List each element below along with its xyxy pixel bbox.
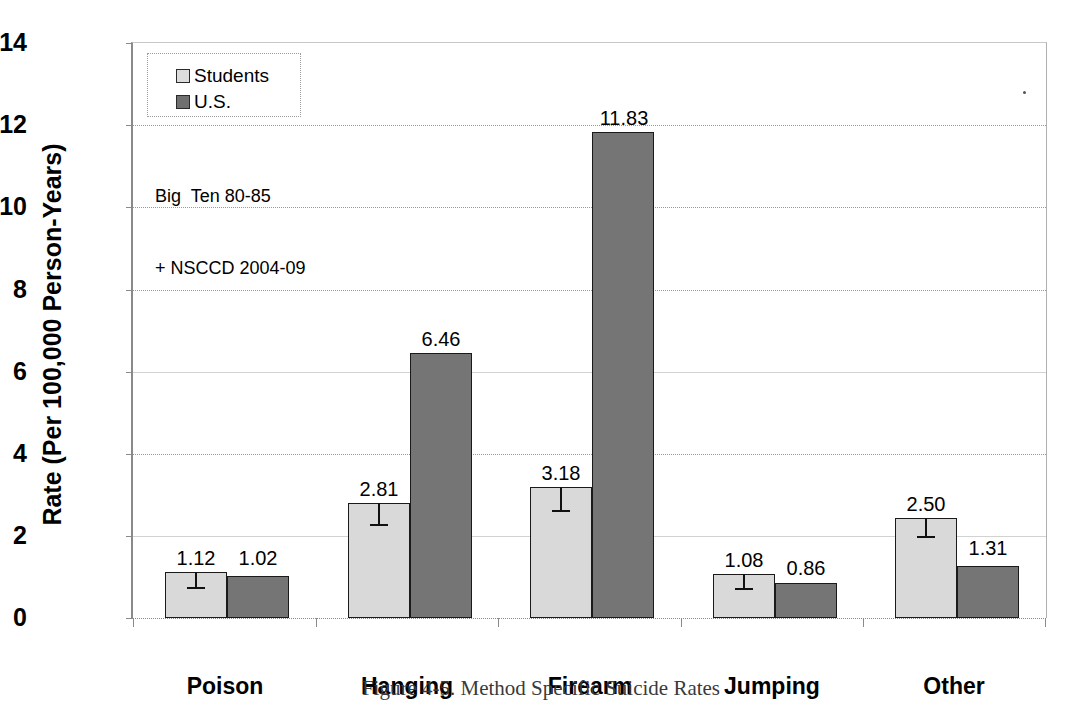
x-tick-mark [133, 618, 134, 627]
y-tick-label: 14 [0, 30, 27, 55]
y-tick-mark [126, 372, 133, 373]
bar-us-firearm[interactable] [592, 132, 654, 618]
error-bar-students-hanging [378, 503, 380, 526]
x-tick-mark [498, 618, 499, 627]
figure-caption: Figure 4-5. Method Specific Suicide Rate… [0, 676, 1082, 701]
bar-us-jumping[interactable] [775, 583, 837, 618]
y-tick-mark [126, 454, 133, 455]
error-bar-cap-students-jumping [735, 588, 753, 590]
y-tick-label: 4 [0, 441, 27, 466]
x-tick-mark [316, 618, 317, 627]
y-tick-mark [126, 125, 133, 126]
y-tick-label: 0 [0, 605, 27, 630]
y-tick-label: 12 [0, 112, 27, 137]
gridline-0-baseline [133, 618, 1046, 619]
bar-value-label-us-poison: 1.02 [223, 548, 293, 568]
bar-value-label-students-other: 2.50 [891, 494, 961, 514]
legend-swatch-students-icon [176, 69, 190, 83]
plot-area: 1.12 1.02 2.81 6.46 3.18 11.83 [131, 42, 1047, 618]
y-axis-title: Rate (Per 100,000 Person-Years) [38, 35, 67, 635]
x-tick-mark [1045, 618, 1046, 627]
y-tick-label: 2 [0, 523, 27, 548]
bar-value-label-us-firearm: 11.83 [584, 108, 664, 128]
error-bar-cap-students-other [917, 536, 935, 538]
bar-value-label-students-poison: 1.12 [161, 548, 231, 568]
bar-group-other: 2.50 1.31 [863, 43, 1046, 618]
error-bar-cap-students-hanging [370, 524, 388, 526]
legend-swatch-us-icon [176, 95, 190, 109]
bar-value-label-students-firearm: 3.18 [526, 463, 596, 483]
legend-label-us: U.S. [194, 92, 231, 111]
bar-value-label-students-hanging: 2.81 [344, 479, 414, 499]
bar-us-poison[interactable] [227, 576, 289, 618]
y-tick-mark [126, 43, 133, 44]
bar-value-label-us-hanging: 6.46 [406, 329, 476, 349]
error-bar-students-firearm [560, 487, 562, 512]
y-tick-mark [126, 618, 133, 619]
legend-item-students: Students [176, 66, 269, 85]
bar-group-poison: 1.12 1.02 [133, 43, 316, 618]
bar-group-jumping: 1.08 0.86 [681, 43, 864, 618]
y-tick-mark [126, 536, 133, 537]
y-tick-label: 6 [0, 359, 27, 384]
bar-us-other[interactable] [957, 566, 1019, 618]
legend: Students U.S. [147, 53, 301, 117]
y-tick-label: 10 [0, 194, 27, 219]
stray-speck-artifact [1023, 91, 1026, 94]
error-bar-students-other [925, 518, 927, 538]
bar-value-label-students-jumping: 1.08 [709, 550, 779, 570]
y-tick-label: 8 [0, 277, 27, 302]
x-tick-mark [681, 618, 682, 627]
annotation-line-2: + NSCCD 2004-09 [155, 256, 306, 280]
legend-label-students: Students [194, 66, 269, 85]
legend-item-us: U.S. [176, 92, 231, 111]
annotation-line-1: Big Ten 80-85 [155, 184, 306, 208]
y-tick-mark [126, 290, 133, 291]
bar-value-label-us-jumping: 0.86 [771, 558, 841, 578]
annotation-text: Big Ten 80-85 + NSCCD 2004-09 [155, 135, 306, 329]
bar-us-hanging[interactable] [410, 353, 472, 618]
x-tick-mark [863, 618, 864, 627]
error-bar-cap-students-poison [187, 587, 205, 589]
bar-group-firearm: 3.18 11.83 [498, 43, 681, 618]
bar-group-hanging: 2.81 6.46 [316, 43, 499, 618]
bar-value-label-us-other: 1.31 [953, 538, 1023, 558]
error-bar-cap-students-firearm [552, 510, 570, 512]
y-tick-mark [126, 207, 133, 208]
